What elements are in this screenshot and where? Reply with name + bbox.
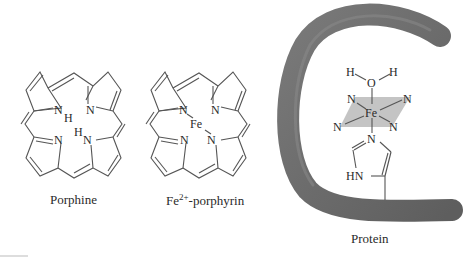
atom-n: N: [207, 133, 216, 147]
atom-n: N: [333, 120, 342, 134]
atom-n: N: [180, 133, 189, 147]
caption-fe-porphyrin: Fe2+-porphyrin: [166, 192, 244, 209]
caption-fe: Fe: [166, 193, 179, 208]
atom-n: N: [179, 103, 188, 117]
atom-n: N: [389, 120, 398, 134]
atom-n: N: [83, 133, 92, 147]
atom-o: O: [367, 76, 376, 90]
atom-hn-histidine: HN: [346, 169, 364, 183]
atom-h: H: [74, 125, 83, 139]
atom-n: N: [403, 92, 412, 106]
caption-charge: 2+: [179, 192, 189, 202]
atom-h: H: [64, 111, 73, 125]
atom-n: N: [347, 92, 356, 106]
atom-n: N: [86, 103, 95, 117]
caption-protein: Protein: [351, 231, 389, 247]
diagram-canvas: N H N N H N N N Fe N N: [0, 0, 473, 258]
atom-n: N: [54, 103, 63, 117]
atom-h: H: [389, 65, 398, 79]
atom-fe: Fe: [365, 106, 377, 120]
atom-n-histidine: N: [367, 132, 376, 146]
porphine-structure: [21, 72, 125, 178]
atom-fe: Fe: [190, 117, 202, 131]
atom-n: N: [54, 133, 63, 147]
caption-porphine: Porphine: [50, 192, 97, 208]
atom-n: N: [211, 103, 220, 117]
atom-h: H: [346, 65, 355, 79]
caption-porphyrin: -porphyrin: [189, 193, 245, 208]
